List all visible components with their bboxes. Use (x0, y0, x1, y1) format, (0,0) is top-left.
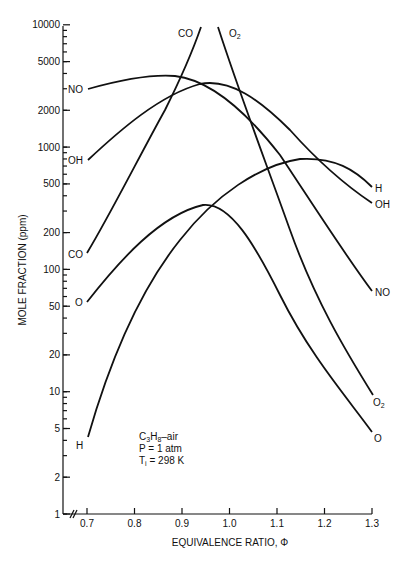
label-oh-left: OH (68, 155, 83, 166)
curve-o2 (218, 27, 373, 395)
mole-fraction-chart: 12510205010020050010002000500010000 0.70… (0, 0, 407, 561)
y-tick-label: 50 (49, 301, 61, 312)
x-tick-label: 1.0 (223, 518, 237, 529)
curve-co (87, 27, 201, 253)
conditions-annotation: C3H8–air P = 1 atm Ti = 298 K (139, 431, 185, 467)
curve-h (88, 159, 372, 437)
label-o2-top: O2 (229, 28, 241, 40)
y-tick-label: 1 (54, 509, 60, 520)
annotation-fuel: C3H8–air (139, 431, 179, 443)
label-co-left: CO (68, 249, 83, 260)
y-tick-label: 500 (43, 178, 60, 189)
label-o-right: O (374, 433, 382, 444)
x-axis-ticks: 0.70.80.91.01.11.21.3 (80, 508, 379, 529)
axes (63, 26, 372, 518)
label-oh-right: OH (375, 199, 390, 210)
label-o2-right: O2 (373, 397, 385, 409)
x-tick-label: 0.7 (80, 518, 94, 529)
y-tick-label: 5 (54, 423, 60, 434)
label-o-left: O (75, 297, 83, 308)
y-tick-label: 10 (49, 386, 61, 397)
label-no-left: NO (68, 84, 83, 95)
y-tick-label: 2 (54, 472, 60, 483)
x-tick-label: 0.8 (128, 518, 142, 529)
label-h-right: H (375, 183, 382, 194)
y-axis-ticks: 12510205010020050010002000500010000 (32, 19, 70, 519)
y-tick-label: 10000 (32, 19, 60, 30)
y-tick-label: 2000 (38, 105, 61, 116)
label-h-left: H (76, 440, 83, 451)
annotation-pressure: P = 1 atm (139, 443, 182, 454)
label-co-top: CO (178, 28, 193, 39)
x-tick-label: 0.9 (175, 518, 189, 529)
y-axis-title: MOLE FRACTION (ppm) (17, 214, 28, 325)
x-tick-label: 1.2 (318, 518, 332, 529)
curve-no (88, 76, 372, 291)
curve-labels: CO O2 NO OH CO O H H OH NO O2 O (68, 28, 390, 451)
y-tick-label: 5000 (38, 56, 61, 67)
label-no-right: NO (375, 287, 390, 298)
x-tick-label: 1.1 (270, 518, 284, 529)
curves (87, 27, 373, 437)
curve-oh (88, 83, 372, 203)
x-axis-title: EQUIVALENCE RATIO, Φ (172, 537, 289, 548)
y-tick-label: 200 (43, 227, 60, 238)
y-tick-label: 20 (49, 349, 61, 360)
annotation-temperature: Ti = 298 K (139, 455, 185, 467)
y-tick-label: 1000 (38, 142, 61, 153)
x-tick-label: 1.3 (365, 518, 379, 529)
y-tick-label: 100 (43, 264, 60, 275)
